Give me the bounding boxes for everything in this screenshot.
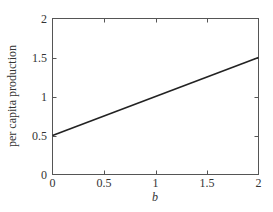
x-tick-labels: 00.511.52 bbox=[50, 176, 262, 190]
x-tick-label: 1.5 bbox=[200, 176, 215, 190]
series-line bbox=[53, 58, 259, 136]
line-chart: 00.511.52 00.511.52 b per capita product… bbox=[0, 0, 273, 212]
x-tick-label: 2 bbox=[256, 176, 262, 190]
x-tick-label: 0.5 bbox=[97, 176, 112, 190]
y-tick-label: 1 bbox=[41, 90, 47, 104]
x-axis-label: b bbox=[152, 190, 158, 204]
data-series bbox=[53, 58, 259, 136]
y-tick-labels: 00.511.52 bbox=[32, 12, 47, 182]
y-tick-label: 0.5 bbox=[32, 129, 47, 143]
x-tick-label: 0 bbox=[50, 176, 56, 190]
y-tick-label: 1.5 bbox=[32, 51, 47, 65]
y-tick-label: 0 bbox=[41, 168, 47, 182]
x-tick-label: 1 bbox=[153, 176, 159, 190]
y-axis-label: per capita production bbox=[5, 45, 19, 147]
y-tick-label: 2 bbox=[41, 12, 47, 26]
